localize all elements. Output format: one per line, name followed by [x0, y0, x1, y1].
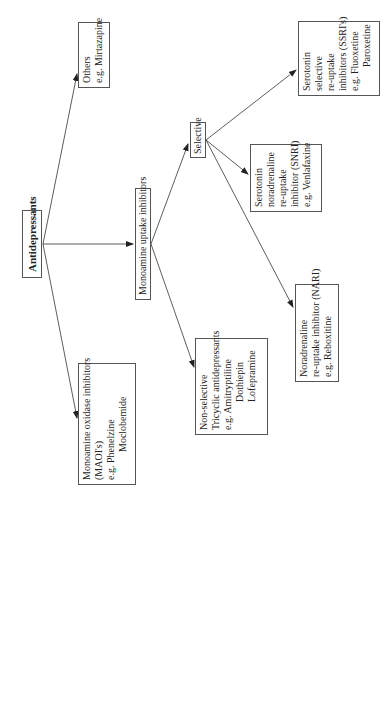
ssri-line-6: Paroxetine	[361, 26, 373, 91]
uptake-label: Monoamine uptake inhibitors	[137, 177, 148, 295]
node-non-selective: Non-selective Tricyclic antidepressants …	[195, 338, 268, 435]
snri-line-4: inhibitor (SNRI)	[289, 149, 301, 207]
snri-line-3: re-uptake	[277, 149, 289, 207]
antidepressant-classification-diagram: Antidepressants Monoamine oxidase inhibi…	[0, 0, 391, 708]
snri-line-1: Serotonin	[253, 149, 265, 207]
maoi-line-2: (MAOI's)	[93, 368, 105, 480]
selective-label: Selective	[192, 117, 203, 154]
nari-line-2: re-uptake inhibitor (NARI)	[310, 289, 322, 377]
node-maoi: Monoamine oxidase inhibitors (MAOI's) e.…	[78, 363, 136, 485]
edge-selective-to-ssri	[206, 70, 296, 140]
ssri-line-4: inhibitors (SSRI's)	[337, 26, 349, 91]
edge-root-to-others	[43, 74, 77, 244]
ssri-line-5: e.g. Fluoxetine	[349, 26, 361, 91]
nari-line-1: Noradrenaline	[298, 289, 310, 377]
ssri-line-3: re-uptake	[325, 26, 337, 91]
nonselective-line-5: Lofepramine	[246, 343, 258, 430]
maoi-line-1: Monoamine oxidase inhibitors	[81, 368, 93, 480]
edge-uptake-to-selective	[151, 144, 188, 244]
node-antidepressants: Antidepressants	[22, 210, 42, 278]
snri-line-2: noradrenaline	[265, 149, 277, 207]
ssri-line-2: selective	[313, 26, 325, 91]
maoi-line-3: e.g. Phenelzine	[105, 368, 117, 480]
node-others: Others e.g. Mirtazapine	[78, 22, 110, 88]
ssri-line-1: Serotonin	[301, 26, 313, 91]
others-line-2: e.g. Mirtazapine	[93, 27, 105, 83]
snri-line-5: e.g. Venlafaxine	[301, 149, 313, 207]
node-snri: Serotonin noradrenaline re-uptake inhibi…	[250, 144, 322, 212]
nonselective-line-2: Tricyclic antidepressants	[210, 343, 222, 430]
node-monoamine-uptake-inhibitors: Monoamine uptake inhibitors	[135, 188, 151, 300]
edge-root-to-maoi	[43, 244, 77, 418]
node-ssri: Serotonin selective re-uptake inhibitors…	[298, 21, 380, 96]
nari-line-3: e.g. Reboxitine	[322, 289, 334, 377]
edge-uptake-to-nonselective	[151, 244, 194, 367]
nonselective-line-3: e.g. Amitryptiline	[222, 343, 234, 430]
edge-selective-to-snri	[206, 140, 248, 174]
nonselective-line-1: Non-selective	[198, 343, 210, 430]
others-line-1: Others	[81, 27, 93, 83]
node-selective: Selective	[190, 122, 206, 158]
node-nari: Noradrenaline re-uptake inhibitor (NARI)…	[295, 284, 339, 382]
node-antidepressants-label: Antidepressants	[26, 196, 38, 272]
nonselective-line-4: Dothiepin	[234, 343, 246, 430]
maoi-line-4: Moclobemide	[117, 368, 129, 480]
